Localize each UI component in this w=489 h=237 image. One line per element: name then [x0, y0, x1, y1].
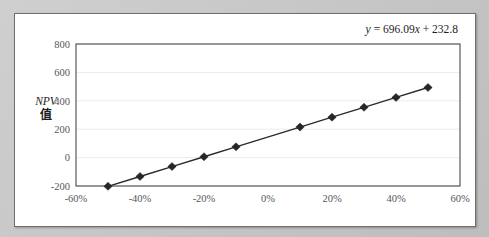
equation-intercept: + 232.8 [423, 23, 458, 35]
y-axis-title-cjk: 值 [40, 107, 52, 122]
series-line-npv [108, 88, 428, 187]
y-tick-label-neg200: -200 [51, 181, 70, 192]
data-series-npv [104, 84, 432, 191]
x-tick-label-60: 60% [450, 193, 470, 204]
y-axis-tick-labels: 800 600 400 200 0 -200 [51, 39, 70, 192]
x-tick-label-neg40: -40% [129, 193, 152, 204]
x-tick-label-0: 0% [261, 193, 275, 204]
y-tick-label-0: 0 [65, 152, 70, 163]
x-tick-label-neg60: -60% [65, 193, 88, 204]
chart-canvas: 800 600 400 200 0 -200 -60% -40% -20% 0%… [15, 14, 477, 228]
data-point-marker [136, 172, 144, 180]
x-tick-label-20: 20% [322, 193, 342, 204]
figure-outer-frame: 800 600 400 200 0 -200 -60% -40% -20% 0%… [0, 0, 489, 237]
data-point-marker [360, 103, 368, 111]
y-tick-label-800: 800 [54, 39, 70, 50]
equation-x-symbol: x [414, 23, 421, 35]
chart-panel: 800 600 400 200 0 -200 -60% -40% -20% 0%… [14, 13, 476, 227]
y-axis-title-latin: NPV [34, 95, 59, 107]
data-point-marker [104, 182, 112, 190]
svg-text:y= 696.09x+ 232.8: y= 696.09x+ 232.8 [365, 23, 459, 36]
data-point-marker [424, 84, 432, 92]
data-point-marker [200, 153, 208, 161]
data-point-marker [168, 163, 176, 171]
x-axis-tick-labels: -60% -40% -20% 0% 20% 40% 60% [65, 193, 470, 204]
y-tick-label-200: 200 [54, 124, 70, 135]
data-point-marker [392, 93, 400, 101]
x-tick-label-40: 40% [386, 193, 406, 204]
data-point-marker [328, 113, 336, 121]
data-point-marker [232, 143, 240, 151]
equation-y-symbol: y [365, 23, 372, 36]
x-tick-label-neg20: -20% [193, 193, 216, 204]
y-axis-title: NPV 值 [34, 95, 59, 122]
plot-area-border [76, 44, 460, 186]
y-tick-label-600: 600 [54, 67, 70, 78]
equation-slope: = 696.09 [374, 23, 415, 35]
data-point-marker [296, 123, 304, 131]
gridlines-group [76, 44, 460, 186]
trendline-equation-annotation: y= 696.09x+ 232.8 [365, 23, 459, 36]
